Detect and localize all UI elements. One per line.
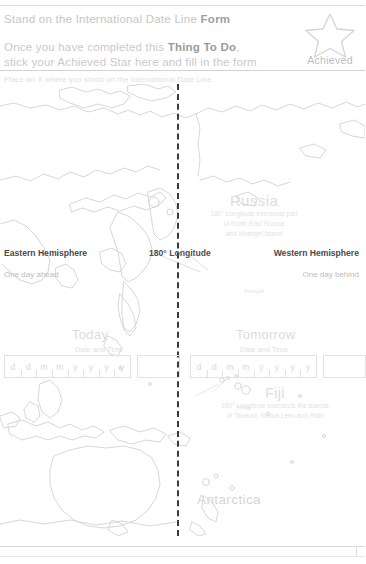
annotation-fiji-title: Fiji: [210, 385, 340, 401]
achieved-badge[interactable]: Achieved: [300, 12, 360, 68]
eastern-hemisphere-label: Eastern Hemisphere: [4, 248, 87, 258]
today-subtitle: Date and Time: [75, 345, 123, 354]
date-cell[interactable]: y: [83, 356, 99, 377]
date-cell[interactable]: d: [21, 356, 37, 377]
annotation-antarctica-title: Antarctica: [197, 492, 261, 507]
top-divider: [0, 5, 365, 6]
tomorrow-time-input[interactable]: [323, 355, 366, 378]
today-time-input[interactable]: [137, 355, 180, 378]
annotation-fiji-description: 180° Longitude intersects the islands of…: [210, 401, 340, 421]
date-cell[interactable]: m: [52, 356, 68, 377]
date-cell[interactable]: y: [99, 356, 115, 377]
footer-divider: [0, 546, 365, 547]
date-cell[interactable]: y: [269, 356, 285, 377]
date-cell[interactable]: m: [238, 356, 254, 377]
annotation-fiji: Fiji 180° Longitude intersects the islan…: [210, 385, 340, 421]
today-date-input[interactable]: d d m m y y y y: [4, 355, 131, 378]
date-cell[interactable]: y: [68, 356, 84, 377]
page-title: Stand on the International Date Line For…: [4, 13, 230, 25]
date-cell[interactable]: m: [36, 356, 52, 377]
star-icon: [302, 12, 358, 58]
annotation-russia-description: 180° Longitude intersects part of North …: [196, 209, 312, 239]
date-cell[interactable]: y: [285, 356, 301, 377]
date-cell[interactable]: d: [5, 356, 21, 377]
today-title: Today: [72, 327, 108, 342]
annotation-russia-desc-line-1: 180° Longitude intersects part: [196, 209, 312, 219]
one-day-ahead-note: One day ahead: [4, 270, 59, 279]
date-cell[interactable]: y: [114, 356, 130, 377]
tomorrow-title: Tomorrow: [236, 327, 295, 342]
tomorrow-date-input[interactable]: d d m m y y y y: [190, 355, 317, 378]
international-date-line: [177, 84, 179, 536]
annotation-fiji-desc-line-1: 180° Longitude intersects the islands: [210, 401, 340, 411]
instruction-line-1: Once you have completed this Thing To Do…: [4, 41, 240, 53]
date-cell[interactable]: y: [300, 356, 316, 377]
footer-tick-mark: [356, 546, 357, 557]
achieved-badge-label: Achieved: [300, 54, 360, 66]
instruction-line-1-emphasis: Thing To Do: [168, 41, 236, 53]
instruction-line-2: stick your Achieved Star here and fill i…: [4, 56, 257, 68]
map-coastlines: [0, 84, 365, 536]
date-cell[interactable]: y: [254, 356, 270, 377]
one-day-behind-note: One day behind: [303, 270, 360, 279]
footer-divider-secondary: [0, 556, 365, 557]
date-cell[interactable]: d: [207, 356, 223, 377]
map-instruction: Place an X where you stood on the Intern…: [4, 75, 212, 84]
instruction-line-1-suffix: ,: [236, 41, 239, 53]
header-divider: [0, 70, 365, 71]
date-cell[interactable]: d: [191, 356, 207, 377]
longitude-label: 180° Longitude: [149, 248, 211, 258]
annotation-russia: Russia 180° Longitude intersects part of…: [196, 192, 312, 239]
annotation-russia-desc-line-3: and Wrangel Island: [196, 229, 312, 239]
annotation-fiji-desc-line-2: of Taveuni, Vanua Levu and Rabi: [210, 411, 340, 421]
western-hemisphere-label: Western Hemisphere: [274, 248, 359, 258]
instruction-line-1-prefix: Once you have completed this: [4, 41, 168, 53]
page-title-emphasis: Form: [201, 13, 231, 25]
annotation-russia-desc-line-2: of North East Russia: [196, 219, 312, 229]
tomorrow-subtitle: Date and Time: [240, 345, 288, 354]
page-title-text: Stand on the International Date Line: [4, 13, 201, 25]
date-cell[interactable]: m: [222, 356, 238, 377]
island-label-wrangel: Wrangel: [244, 288, 264, 294]
world-map[interactable]: [0, 84, 365, 536]
annotation-antarctica: Antarctica: [197, 492, 261, 507]
annotation-russia-title: Russia: [196, 192, 312, 209]
